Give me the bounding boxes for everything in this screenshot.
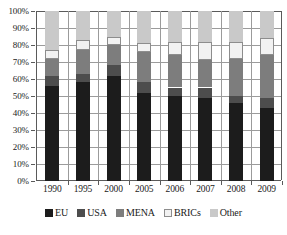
bar-group <box>221 11 252 181</box>
bar-segment-other[interactable] <box>45 11 59 50</box>
bar-segment-usa[interactable] <box>76 74 90 83</box>
bar-segment-mena[interactable] <box>260 55 274 98</box>
y-axis-label: 10% <box>13 160 29 169</box>
bar-segment-mena[interactable] <box>107 45 121 65</box>
y-axis-label: 80% <box>13 41 29 50</box>
legend-swatch-icon <box>164 209 172 217</box>
bar-stack[interactable] <box>260 11 274 181</box>
bar-stack[interactable] <box>198 11 212 181</box>
bar-segment-mena[interactable] <box>229 59 243 96</box>
bar-segment-usa[interactable] <box>229 96 243 103</box>
bar-segment-usa[interactable] <box>168 88 182 97</box>
bar-group <box>68 11 99 181</box>
legend-swatch-icon <box>210 209 218 217</box>
bar-segment-brics[interactable] <box>45 50 59 59</box>
legend-label: USA <box>87 208 107 218</box>
bar-segment-mena[interactable] <box>137 52 151 83</box>
bars-layer <box>37 11 281 181</box>
y-axis-tick <box>31 130 35 131</box>
y-axis-label: 0% <box>17 177 29 186</box>
x-axis-label: 2009 <box>257 184 276 195</box>
y-axis-tick <box>31 164 35 165</box>
x-axis-label: 2006 <box>166 184 185 195</box>
bar-segment-usa[interactable] <box>198 88 212 98</box>
bar-segment-mena[interactable] <box>168 55 182 87</box>
bar-segment-brics[interactable] <box>76 40 90 50</box>
x-axis-label: 1995 <box>74 184 93 195</box>
legend-swatch-icon <box>77 209 85 217</box>
bar-stack[interactable] <box>137 11 151 181</box>
bar-segment-eu[interactable] <box>168 96 182 181</box>
bar-segment-eu[interactable] <box>45 86 59 181</box>
bar-segment-mena[interactable] <box>45 59 59 76</box>
x-axis-tick <box>160 181 161 185</box>
bar-segment-eu[interactable] <box>260 108 274 181</box>
bar-segment-usa[interactable] <box>260 98 274 108</box>
x-axis-tick <box>129 181 130 185</box>
bar-group <box>160 11 191 181</box>
chart-legend: EUUSAMENABRICsOther <box>0 208 287 218</box>
bar-segment-eu[interactable] <box>229 103 243 181</box>
y-axis-tick <box>31 79 35 80</box>
legend-swatch-icon <box>116 209 124 217</box>
bar-segment-eu[interactable] <box>107 76 121 181</box>
bar-stack[interactable] <box>168 11 182 181</box>
bar-segment-other[interactable] <box>168 11 182 42</box>
y-axis: 0%10%20%30%40%50%60%70%80%90%100% <box>0 11 33 181</box>
bar-stack[interactable] <box>229 11 243 181</box>
y-axis-label: 90% <box>13 24 29 33</box>
bar-segment-other[interactable] <box>260 11 274 38</box>
bar-segment-other[interactable] <box>137 11 151 43</box>
y-axis-label: 70% <box>13 58 29 67</box>
bar-segment-mena[interactable] <box>76 50 90 74</box>
stacked-bar-chart: 0%10%20%30%40%50%60%70%80%90%100% 199019… <box>0 0 287 235</box>
y-axis-tick <box>31 147 35 148</box>
bar-stack[interactable] <box>107 11 121 181</box>
legend-item-mena[interactable]: MENA <box>116 208 155 218</box>
legend-item-eu[interactable]: EU <box>45 208 68 218</box>
x-axis-tick <box>190 181 191 185</box>
y-axis-label: 30% <box>13 126 29 135</box>
bar-segment-brics[interactable] <box>107 37 121 46</box>
x-axis-tick <box>251 181 252 185</box>
bar-segment-other[interactable] <box>198 11 212 42</box>
x-axis-label: 2008 <box>227 184 246 195</box>
legend-swatch-icon <box>45 209 53 217</box>
bar-segment-eu[interactable] <box>137 93 151 181</box>
bar-segment-usa[interactable] <box>107 65 121 75</box>
legend-label: MENA <box>126 208 155 218</box>
y-axis-label: 50% <box>13 92 29 101</box>
bar-segment-usa[interactable] <box>45 76 59 86</box>
x-axis-label: 1990 <box>43 184 62 195</box>
bar-stack[interactable] <box>76 11 90 181</box>
bar-segment-brics[interactable] <box>137 43 151 52</box>
bar-group <box>37 11 68 181</box>
bar-segment-other[interactable] <box>229 11 243 42</box>
bar-segment-brics[interactable] <box>229 42 243 59</box>
x-axis-tick <box>221 181 222 185</box>
bar-group <box>129 11 160 181</box>
y-axis-tick <box>31 62 35 63</box>
y-axis-label: 40% <box>13 109 29 118</box>
bar-segment-brics[interactable] <box>260 38 274 55</box>
bar-segment-eu[interactable] <box>76 82 90 181</box>
x-axis-tick <box>98 181 99 185</box>
legend-item-usa[interactable]: USA <box>77 208 107 218</box>
bar-segment-other[interactable] <box>107 11 121 37</box>
y-axis-tick <box>31 113 35 114</box>
bar-segment-mena[interactable] <box>198 60 212 87</box>
legend-item-other[interactable]: Other <box>210 208 242 218</box>
bar-segment-brics[interactable] <box>168 42 182 56</box>
bar-segment-other[interactable] <box>76 11 90 40</box>
bar-segment-eu[interactable] <box>198 98 212 181</box>
bar-stack[interactable] <box>45 11 59 181</box>
x-axis-label: 2007 <box>196 184 215 195</box>
bar-segment-usa[interactable] <box>137 82 151 92</box>
x-axis-tick <box>68 181 69 185</box>
y-axis-tick <box>31 96 35 97</box>
x-axis: 19901995200020052006200720082009 <box>37 184 281 198</box>
y-axis-label: 100% <box>8 7 29 16</box>
x-axis-label: 2000 <box>104 184 123 195</box>
bar-segment-brics[interactable] <box>198 42 212 61</box>
legend-item-brics[interactable]: BRICs <box>164 208 201 218</box>
